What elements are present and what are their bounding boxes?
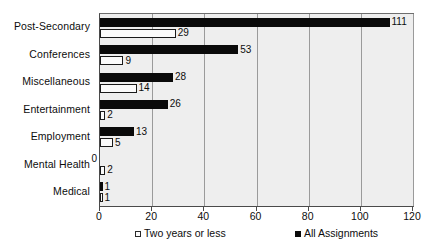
- bar: [100, 84, 137, 93]
- bar: [100, 29, 176, 38]
- x-axis-tick-label: 100: [351, 211, 369, 222]
- bar-value-label: 1: [103, 193, 111, 203]
- legend-label-all-assignments: All Assignments: [304, 228, 378, 239]
- legend-swatch-dark-icon: [295, 231, 301, 237]
- bar-row: 1: [100, 182, 413, 191]
- category-label: Mental Health: [0, 150, 95, 177]
- bar-row: 111: [100, 18, 413, 27]
- bar-value-label: 9: [123, 56, 131, 66]
- category-label: Post-Secondary: [0, 13, 95, 40]
- x-axis-tick-labels: 020406080100120: [99, 211, 412, 225]
- bar-value-label: 53: [238, 45, 251, 55]
- bar-group: 539: [100, 41, 413, 68]
- bar-group: 135: [100, 124, 413, 151]
- bar-row: 29: [100, 29, 413, 38]
- category-label: Miscellaneous: [0, 68, 95, 95]
- bar-groups: 1112953928142621350211: [100, 14, 413, 206]
- category-axis-labels: Post-SecondaryConferencesMiscellaneousEn…: [0, 13, 95, 205]
- gridline: [413, 14, 414, 206]
- bar-row: 9: [100, 56, 413, 65]
- bar: [100, 45, 238, 54]
- bar-group: 11129: [100, 14, 413, 41]
- bar-value-label: 2: [105, 110, 113, 120]
- bar-value-label: 13: [134, 127, 147, 137]
- legend-label-two-years-or-less: Two years or less: [144, 228, 226, 239]
- category-label: Medical: [0, 178, 95, 205]
- bar-row: 2: [100, 166, 413, 175]
- x-axis-tick-label: 40: [197, 211, 209, 222]
- bar-value-label: 28: [173, 72, 186, 82]
- bar-value-label: 26: [168, 99, 181, 109]
- bar-row: 0: [100, 155, 413, 164]
- x-axis-tick-label: 80: [302, 211, 314, 222]
- bar-row: 53: [100, 45, 413, 54]
- x-axis-tick-label: 60: [250, 211, 262, 222]
- category-label: Conferences: [0, 40, 95, 67]
- bar-value-label: 0: [91, 154, 100, 164]
- bar-value-label: 2: [105, 165, 113, 175]
- bar-value-label: 14: [137, 83, 150, 93]
- bar-value-label: 1: [103, 182, 111, 192]
- plot-area: 1112953928142621350211: [99, 13, 414, 207]
- bar-row: 2: [100, 111, 413, 120]
- category-label: Entertainment: [0, 95, 95, 122]
- bar-group: 262: [100, 96, 413, 123]
- bar-value-label: 5: [113, 138, 121, 148]
- x-axis-tick-label: 120: [403, 211, 421, 222]
- chart-legend: Two years or less All Assignments: [99, 228, 419, 244]
- bar: [100, 127, 134, 136]
- bar-value-label: 29: [176, 28, 189, 38]
- bar-group: 02: [100, 151, 413, 178]
- bar-row: 5: [100, 138, 413, 147]
- legend-swatch-light-icon: [135, 231, 141, 237]
- category-label: Employment: [0, 123, 95, 150]
- bar-group: 11: [100, 179, 413, 206]
- bar: [100, 18, 390, 27]
- bar-row: 1: [100, 193, 413, 202]
- bar: [100, 56, 123, 65]
- bar-row: 28: [100, 73, 413, 82]
- legend-item-two-years-or-less: Two years or less: [135, 228, 226, 239]
- bar-row: 13: [100, 127, 413, 136]
- bar-value-label: 111: [390, 17, 407, 27]
- bar-chart: Post-SecondaryConferencesMiscellaneousEn…: [0, 0, 427, 251]
- bar: [100, 73, 173, 82]
- x-axis-tick-label: 0: [96, 211, 102, 222]
- bar-group: 2814: [100, 69, 413, 96]
- x-axis-tick-label: 20: [145, 211, 157, 222]
- bar-row: 26: [100, 100, 413, 109]
- bar: [100, 100, 168, 109]
- bar: [100, 138, 113, 147]
- legend-item-all-assignments: All Assignments: [295, 228, 378, 239]
- bar-row: 14: [100, 84, 413, 93]
